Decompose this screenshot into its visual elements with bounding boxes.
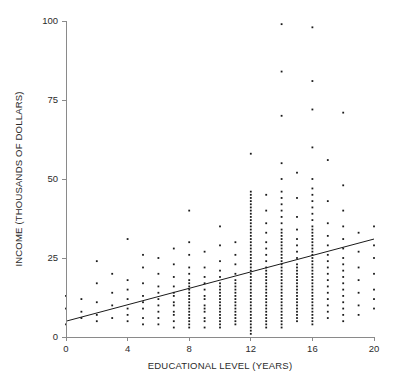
data-point	[188, 286, 190, 288]
data-point	[250, 298, 252, 300]
data-point	[250, 267, 252, 269]
x-tick-label: 12	[246, 343, 257, 354]
data-point	[296, 251, 298, 253]
data-point	[235, 314, 237, 316]
data-point	[327, 273, 329, 275]
data-point	[188, 320, 190, 322]
data-point	[158, 311, 160, 313]
data-point	[327, 200, 329, 202]
data-point	[204, 317, 206, 319]
data-point	[327, 286, 329, 288]
data-point	[250, 260, 252, 262]
data-point	[281, 241, 283, 243]
data-point	[296, 267, 298, 269]
data-point	[265, 317, 267, 319]
y-tick-label: 75	[47, 94, 58, 105]
data-point	[312, 238, 314, 240]
data-point	[158, 323, 160, 325]
data-point	[204, 308, 206, 310]
data-point	[250, 235, 252, 237]
data-point	[235, 317, 237, 319]
data-point	[188, 301, 190, 303]
data-point	[265, 292, 267, 294]
data-point	[219, 292, 221, 294]
data-point	[373, 244, 375, 246]
y-tick-label: 25	[47, 252, 58, 263]
data-point	[250, 273, 252, 275]
data-point	[312, 270, 314, 272]
data-point	[235, 308, 237, 310]
data-point	[373, 273, 375, 275]
data-point	[312, 289, 314, 291]
data-point	[281, 235, 283, 237]
data-point	[142, 267, 144, 269]
data-point	[250, 244, 252, 246]
x-tick-group: 048121620	[63, 337, 379, 354]
data-point	[204, 295, 206, 297]
data-point	[296, 257, 298, 259]
data-point	[250, 330, 252, 332]
data-point	[173, 327, 175, 329]
y-tick-label: 0	[53, 331, 58, 342]
data-point	[327, 260, 329, 262]
data-point	[281, 327, 283, 329]
data-point	[250, 222, 252, 224]
data-point	[188, 323, 190, 325]
data-point	[342, 289, 344, 291]
data-point	[219, 320, 221, 322]
data-point	[312, 244, 314, 246]
data-point	[327, 244, 329, 246]
data-point	[281, 276, 283, 278]
data-point	[235, 286, 237, 288]
data-point	[127, 298, 129, 300]
data-point	[81, 311, 83, 313]
data-point	[342, 301, 344, 303]
data-point	[327, 254, 329, 256]
data-point	[204, 327, 206, 329]
data-point	[96, 260, 98, 262]
data-point	[158, 298, 160, 300]
data-point	[250, 194, 252, 196]
data-point	[312, 301, 314, 303]
data-point	[250, 295, 252, 297]
data-point	[235, 254, 237, 256]
data-point	[250, 203, 252, 205]
data-point	[312, 314, 314, 316]
data-point	[312, 323, 314, 325]
data-point	[296, 301, 298, 303]
data-point	[219, 260, 221, 262]
data-point	[312, 263, 314, 265]
data-point	[173, 286, 175, 288]
data-point	[312, 267, 314, 269]
data-point	[265, 279, 267, 281]
data-point	[265, 222, 267, 224]
data-point	[265, 314, 267, 316]
data-point	[250, 323, 252, 325]
data-point	[312, 241, 314, 243]
data-point	[204, 311, 206, 313]
data-point	[296, 295, 298, 297]
data-point	[219, 308, 221, 310]
data-point	[250, 314, 252, 316]
data-point	[342, 257, 344, 259]
data-point	[312, 286, 314, 288]
data-point	[173, 311, 175, 313]
data-point	[188, 305, 190, 307]
data-point	[250, 286, 252, 288]
data-point	[312, 276, 314, 278]
data-point	[96, 301, 98, 303]
data-point	[250, 197, 252, 199]
data-point	[373, 257, 375, 259]
data-point	[296, 238, 298, 240]
data-point	[312, 295, 314, 297]
data-point	[265, 241, 267, 243]
data-point	[250, 207, 252, 209]
data-point	[204, 276, 206, 278]
data-point	[219, 327, 221, 329]
data-point	[296, 314, 298, 316]
data-point	[312, 248, 314, 250]
data-point	[342, 112, 344, 114]
data-point	[173, 295, 175, 297]
data-point	[250, 333, 252, 335]
data-point	[235, 298, 237, 300]
